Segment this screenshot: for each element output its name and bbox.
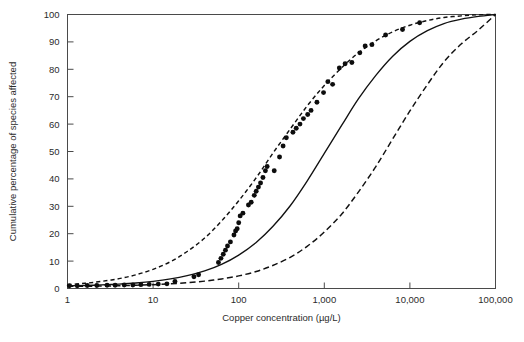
data-point [357, 50, 362, 55]
data-point [325, 79, 330, 84]
data-point [196, 272, 201, 277]
y-tick-label-40: 40 [49, 173, 60, 184]
data-point [305, 112, 310, 117]
x-tick-label-1000: 1,000 [312, 294, 336, 305]
figure-container: 0102030405060708090100 1101001,00010,000… [0, 0, 524, 342]
data-point [138, 282, 143, 287]
data-point [228, 239, 233, 244]
x-axis-tick-labels: 1101001,00010,000100,000 [65, 294, 513, 305]
data-point [249, 200, 254, 205]
data-point [400, 27, 405, 32]
x-tick-label-100000: 100,000 [478, 294, 512, 305]
data-point [254, 189, 259, 194]
data-point [156, 282, 161, 287]
data-point [284, 135, 289, 140]
lower-confidence-bound-curve [68, 15, 496, 287]
y-axis-tick-labels: 0102030405060708090100 [44, 9, 60, 294]
data-point [164, 281, 169, 286]
y-tick-label-70: 70 [49, 91, 60, 102]
data-point [337, 65, 342, 70]
x-axis-title: Copper concentration (µg/L) [222, 312, 340, 323]
data-point [130, 282, 135, 287]
y-tick-label-0: 0 [54, 283, 59, 294]
y-tick-label-10: 10 [49, 256, 60, 267]
data-point [191, 274, 196, 279]
data-point [343, 61, 348, 66]
data-point [235, 226, 240, 231]
data-point [349, 60, 354, 65]
data-point [105, 283, 110, 288]
data-point [272, 168, 277, 173]
data-point [417, 20, 422, 25]
scatter-data-points [67, 20, 422, 288]
y-axis-tick-marks [68, 15, 74, 289]
plot-frame [68, 15, 496, 289]
data-point [363, 44, 368, 49]
data-point [321, 90, 326, 95]
data-point [383, 33, 388, 38]
data-point [277, 155, 282, 160]
x-tick-label-1: 1 [65, 294, 70, 305]
y-tick-label-80: 80 [49, 64, 60, 75]
data-point [236, 220, 241, 225]
data-point [173, 279, 178, 284]
plot-area-border [68, 15, 496, 289]
x-tick-label-10: 10 [148, 294, 159, 305]
data-point [301, 116, 306, 121]
data-point [75, 283, 80, 288]
x-tick-label-100: 100 [231, 294, 247, 305]
species-sensitivity-distribution-chart: 0102030405060708090100 1101001,00010,000… [0, 0, 524, 342]
y-tick-label-50: 50 [49, 146, 60, 157]
data-point [113, 283, 118, 288]
y-tick-label-100: 100 [44, 9, 60, 20]
y-axis-title: Cumulative percentage of species affecte… [7, 62, 18, 241]
upper-confidence-bound-curve [68, 15, 496, 285]
data-point [261, 175, 266, 180]
y-tick-label-20: 20 [49, 228, 60, 239]
data-point [218, 256, 223, 261]
data-point [122, 282, 127, 287]
data-point [216, 260, 221, 265]
x-tick-label-10000: 10,000 [395, 294, 424, 305]
data-point [85, 283, 90, 288]
data-point [281, 144, 286, 149]
data-point [309, 108, 314, 113]
data-point [290, 130, 295, 135]
data-point [314, 100, 319, 105]
data-point [67, 283, 72, 288]
data-point [147, 282, 152, 287]
y-tick-label-30: 30 [49, 201, 60, 212]
curves-group [68, 15, 496, 287]
data-point [298, 122, 303, 127]
data-point [258, 181, 263, 186]
data-point [94, 283, 99, 288]
data-point [294, 126, 299, 131]
data-point [240, 211, 245, 216]
fitted-ssd-curve [68, 15, 496, 286]
data-point [265, 164, 270, 169]
data-point [225, 244, 230, 249]
y-tick-label-60: 60 [49, 119, 60, 130]
data-point [330, 82, 335, 87]
y-tick-label-90: 90 [49, 36, 60, 47]
data-point [369, 42, 374, 47]
